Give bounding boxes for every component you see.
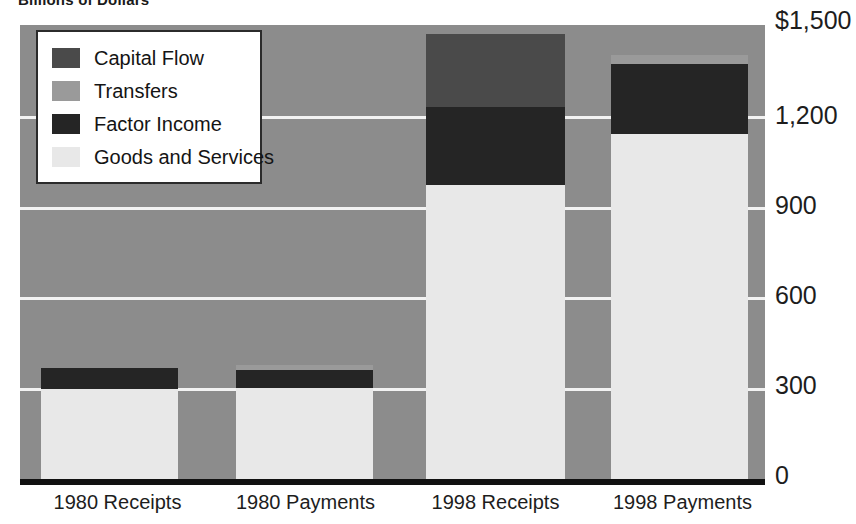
bar-segment-goods-and-services [41, 389, 178, 479]
stacked-bar-chart-figure: Billions of Dollars $1,500 1,200 900 600… [0, 0, 856, 524]
bar-segment-factor-income [236, 370, 373, 388]
bar-1980-payments [236, 365, 373, 479]
legend-item-factor-income: Factor Income [52, 107, 238, 140]
bar-segment-factor-income [611, 64, 748, 134]
chart-subtitle: Billions of Dollars [18, 0, 149, 6]
bar-segment-goods-and-services [236, 388, 373, 479]
bar-segment-transfers [236, 365, 373, 370]
legend-swatch-goods-and-services [52, 147, 80, 167]
bar-1998-payments [611, 55, 748, 479]
y-tick-label-300: 300 [775, 373, 817, 398]
bar-segment-goods-and-services [611, 134, 748, 479]
y-tick-label-1500: $1,500 [775, 8, 851, 33]
x-axis-line [20, 479, 765, 485]
bar-segment-factor-income [41, 368, 178, 389]
x-tick-label-1980-payments: 1980 Payments [208, 491, 403, 513]
bar-1998-receipts [426, 34, 565, 479]
y-tick-label-0: 0 [775, 463, 789, 488]
legend-swatch-capital-flow [52, 48, 80, 68]
chart-legend: Capital Flow Transfers Factor Income Goo… [36, 30, 262, 184]
legend-label-capital-flow: Capital Flow [94, 47, 204, 69]
legend-item-goods-and-services: Goods and Services [52, 140, 238, 173]
y-tick-label-600: 600 [775, 283, 817, 308]
legend-item-transfers: Transfers [52, 74, 238, 107]
bar-segment-factor-income [426, 107, 565, 186]
x-tick-label-1998-receipts: 1998 Receipts [398, 491, 593, 513]
bar-1980-receipts [41, 368, 178, 479]
legend-label-factor-income: Factor Income [94, 113, 222, 135]
y-tick-label-1200: 1,200 [775, 103, 838, 128]
x-tick-label-1980-receipts: 1980 Receipts [20, 491, 215, 513]
legend-swatch-factor-income [52, 114, 80, 134]
legend-item-capital-flow: Capital Flow [52, 41, 238, 74]
bar-segment-goods-and-services [426, 185, 565, 479]
y-tick-label-900: 900 [775, 193, 817, 218]
legend-label-goods-and-services: Goods and Services [94, 146, 274, 168]
legend-swatch-transfers [52, 81, 80, 101]
bar-segment-transfers [611, 55, 748, 64]
legend-label-transfers: Transfers [94, 80, 178, 102]
bar-segment-capital-flow [426, 34, 565, 107]
x-tick-label-1998-payments: 1998 Payments [585, 491, 780, 513]
